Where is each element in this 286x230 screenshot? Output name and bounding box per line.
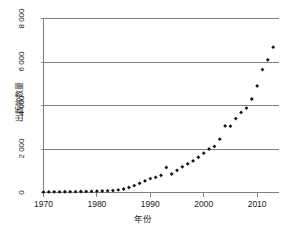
data-point [127,186,131,190]
y-tick-label: 0 [16,175,25,209]
data-point [132,184,136,188]
data-point [196,155,200,159]
data-point [245,106,249,110]
x-tick-label: 1970 [27,199,61,209]
data-point [191,159,195,163]
data-point [47,190,51,194]
x-tick-label: 2000 [187,199,221,209]
data-point [271,45,275,49]
gridlines [44,19,279,150]
data-points [42,45,275,194]
x-tick-label: 1980 [80,199,114,209]
x-tick-label: 2010 [240,199,274,209]
data-point [143,179,147,183]
data-point [122,187,126,191]
x-axis-title: 年份 [0,212,286,224]
data-point [186,162,190,166]
data-point [175,168,179,172]
data-point [58,190,62,194]
data-point [154,175,158,179]
data-point [170,172,174,176]
y-tick-label: 6 000 [16,45,25,79]
data-point [207,147,211,151]
data-point [255,84,259,88]
data-point [266,58,270,62]
data-point [111,189,115,193]
plot-area [0,0,286,230]
data-point [218,137,222,141]
data-point [223,124,227,128]
x-tick-label: 1990 [133,199,167,209]
publications-scatter-chart: 出版物数量 02 0004 0006 0008 000 197019801990… [0,0,286,230]
data-point [213,144,217,148]
data-point [52,190,56,194]
y-tick-label: 8 000 [16,1,25,35]
data-point [164,166,168,170]
data-point [148,177,152,181]
data-point [250,97,254,101]
data-point [159,173,163,177]
data-point [116,188,120,192]
data-point [63,190,67,194]
data-point [229,124,233,128]
data-point [261,68,265,72]
y-tick-label: 4 000 [16,88,25,122]
data-point [180,165,184,169]
data-point [138,181,142,185]
data-point [202,151,206,155]
y-tick-label: 2 000 [16,132,25,166]
data-point [42,190,46,194]
data-point [239,111,243,115]
data-point [234,117,238,121]
